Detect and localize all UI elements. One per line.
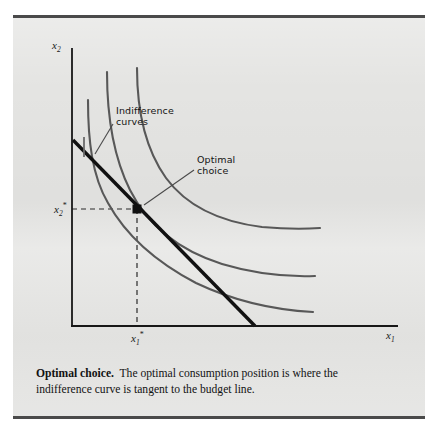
optimal-choice-label: Optimal choice	[197, 154, 235, 176]
indifference-curve-low	[88, 100, 313, 312]
x-axis-tick-label: x1*	[131, 331, 144, 346]
indifference-curves-label: Indifference curves	[116, 105, 174, 127]
optimal-choice-point	[133, 205, 142, 214]
indifference-curves-leader	[95, 124, 113, 154]
figure-caption: Optimal choice. The optimal consumption …	[36, 366, 394, 399]
caption-lead: Optimal choice.	[36, 367, 114, 380]
indifference-curve-chart	[0, 0, 446, 360]
bottom-rule	[13, 416, 425, 419]
x-axis-label: x1	[386, 330, 395, 344]
y-axis-tick-label: x2*	[54, 202, 67, 217]
y-axis-label: x2	[52, 40, 61, 54]
dashed-guides	[72, 209, 137, 326]
indifference-curve-high	[137, 68, 320, 229]
figure-page: x2 x1 x2* x1* Indifference curves Optima…	[0, 0, 446, 428]
